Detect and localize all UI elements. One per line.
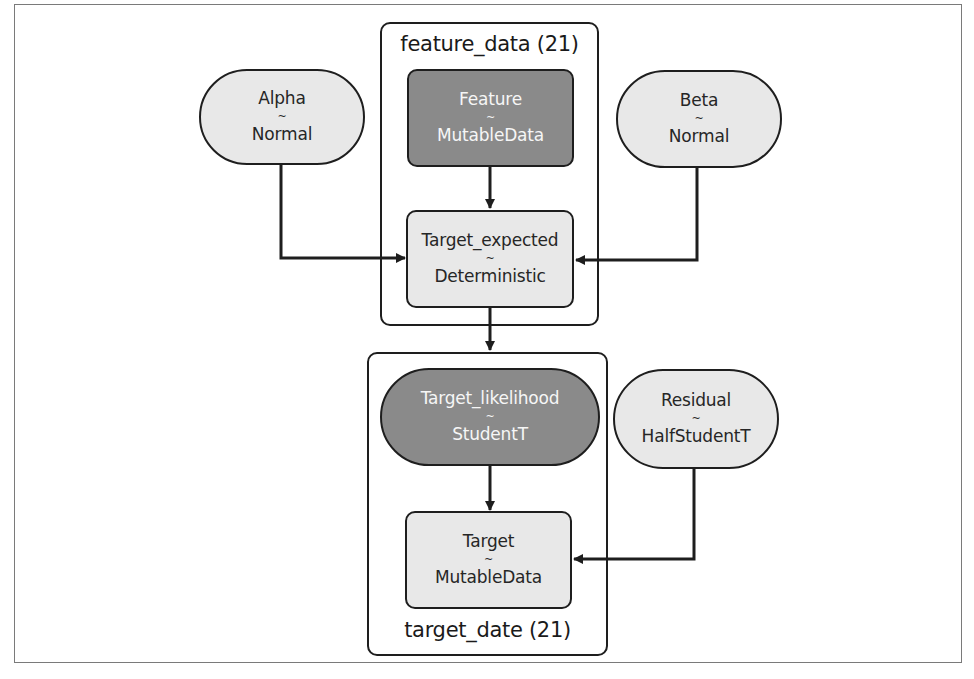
node-feature[interactable]: Feature ~ MutableData (407, 69, 574, 167)
node-target-expected-name: Target_expected (422, 231, 559, 251)
node-alpha-name: Alpha (258, 89, 305, 109)
node-alpha[interactable]: Alpha ~ Normal (199, 69, 365, 165)
node-feature-name: Feature (459, 90, 522, 110)
plate-feature-data-label: feature_data (21) (382, 32, 597, 56)
node-alpha-tilde: ~ (277, 111, 286, 122)
node-residual-tilde: ~ (691, 413, 700, 424)
node-alpha-dist: Normal (252, 125, 312, 145)
node-beta-dist: Normal (669, 127, 729, 147)
plate-target-date-label: target_date (21) (369, 618, 606, 642)
node-target-tilde: ~ (484, 554, 493, 565)
node-target-likelihood-tilde: ~ (485, 411, 494, 422)
node-target-name: Target (463, 532, 514, 552)
node-residual-name: Residual (661, 391, 731, 411)
diagram-canvas: feature_data (21) target_date (21) Alpha… (0, 0, 974, 679)
node-beta-name: Beta (680, 91, 718, 111)
node-residual-dist: HalfStudentT (642, 427, 751, 447)
node-target-likelihood-dist: StudentT (452, 425, 528, 445)
node-residual[interactable]: Residual ~ HalfStudentT (613, 369, 779, 469)
node-target[interactable]: Target ~ MutableData (405, 511, 572, 609)
node-target-expected[interactable]: Target_expected ~ Deterministic (406, 210, 574, 308)
node-feature-dist: MutableData (437, 126, 544, 146)
node-target-expected-tilde: ~ (485, 253, 494, 264)
node-target-dist: MutableData (435, 568, 542, 588)
node-feature-tilde: ~ (486, 112, 495, 123)
node-target-expected-dist: Deterministic (434, 267, 545, 287)
node-target-likelihood[interactable]: Target_likelihood ~ StudentT (380, 368, 600, 466)
node-beta-tilde: ~ (694, 113, 703, 124)
node-beta[interactable]: Beta ~ Normal (616, 70, 782, 168)
node-target-likelihood-name: Target_likelihood (421, 389, 560, 409)
